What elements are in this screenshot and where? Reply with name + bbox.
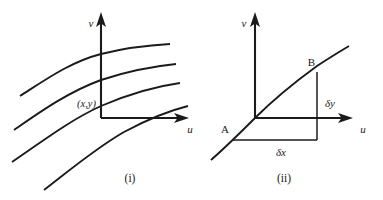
panel-ii-u-axis	[255, 113, 353, 123]
panel-i-v-axis	[96, 12, 106, 118]
panel-ii-delta-x-label: δx	[276, 146, 286, 158]
panel-i-caption: (i)	[125, 172, 136, 185]
panel-ii-caption: (ii)	[277, 172, 291, 185]
panel-ii-point-a-label: A	[221, 123, 229, 135]
panel-i-curve-1	[20, 44, 170, 96]
panel-ii-delta-y-label: δy	[325, 97, 335, 109]
figure-root: v (x,y) (i) u v u A B δx δy (ii)	[0, 0, 383, 200]
panel-ii-point-b-label: B	[308, 56, 315, 68]
panel-i-v-axis-label: v	[89, 17, 94, 29]
panel-ii-v-axis	[250, 12, 260, 118]
panel-i-diagram: v (x,y) (i)	[0, 0, 191, 200]
panel-i-origin-point-label: (x,y)	[77, 98, 96, 110]
panel-i-curve-2	[14, 64, 176, 130]
panel-ii-u-axis-label: u	[360, 123, 366, 135]
panel-ii-v-axis-label: v	[242, 17, 247, 29]
panel-ii-diagram: v u A B δx δy (ii)	[191, 0, 383, 200]
